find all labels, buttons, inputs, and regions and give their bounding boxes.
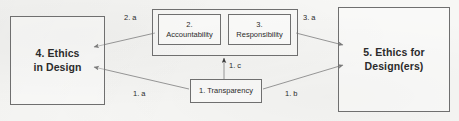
edge-label-1c: 1. c: [229, 61, 241, 70]
node-ethics-for-designers-label: 5. Ethics for Design(ers): [363, 46, 424, 74]
edge-label-1b: 1. b: [285, 89, 298, 98]
diagram-canvas: 4. Ethics in Design 2. Accountability 3.…: [0, 0, 459, 121]
node-ethics-in-design[interactable]: 4. Ethics in Design: [10, 16, 105, 105]
node-transparency[interactable]: 1. Transparency: [190, 79, 262, 103]
node-transparency-label: 1. Transparency: [199, 86, 253, 96]
edge-label-3a: 3. a: [303, 13, 316, 22]
edge-label-1a: 1. a: [133, 89, 146, 98]
node-responsibility[interactable]: 3. Responsibility: [228, 14, 291, 45]
edge-line-1b: [263, 65, 343, 89]
edge-line-3a: [296, 33, 343, 45]
node-ethics-for-designers[interactable]: 5. Ethics for Design(ers): [338, 7, 450, 112]
edge-line-1a: [94, 67, 189, 89]
node-ethics-in-design-label: 4. Ethics in Design: [33, 47, 81, 75]
edge-label-2a: 2. a: [124, 13, 137, 22]
node-accountability-label: 2. Accountability: [166, 20, 212, 40]
node-responsibility-label: 3. Responsibility: [236, 20, 282, 40]
node-accountability[interactable]: 2. Accountability: [158, 14, 221, 45]
